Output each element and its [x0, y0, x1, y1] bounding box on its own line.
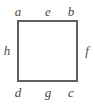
- corner-label-top-left: a: [11, 5, 25, 18]
- labeled-square-figure: a e b h f d g c: [0, 0, 95, 105]
- square-shape: [18, 21, 77, 81]
- edge-label-bottom: g: [41, 86, 55, 99]
- corner-label-bottom-right: c: [64, 86, 78, 99]
- corner-label-bottom-left: d: [11, 86, 25, 99]
- edge-label-top: e: [41, 5, 55, 18]
- edge-label-right: f: [80, 44, 94, 57]
- edge-label-left: h: [0, 44, 14, 57]
- corner-label-top-right: b: [64, 5, 78, 18]
